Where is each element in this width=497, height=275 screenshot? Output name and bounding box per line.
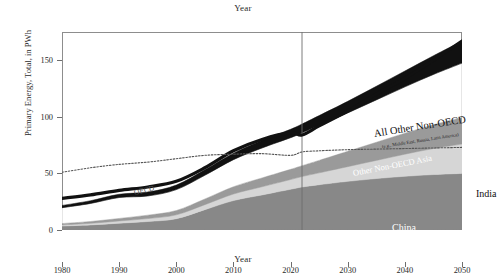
y-tick-label: 0 (25, 226, 53, 235)
annotation-india: India (476, 188, 497, 199)
plot-area: Africa All Other Non-OECD (e.g., Middle … (62, 32, 462, 230)
y-tick-mark (57, 173, 62, 174)
chart-svg (62, 32, 462, 230)
y-tick-label: 100 (25, 112, 53, 121)
x-tick-label: 1980 (40, 266, 84, 275)
y-tick-mark (57, 60, 62, 61)
y-tick-label: 150 (25, 56, 53, 65)
x-tick-label: 2040 (383, 266, 427, 275)
x-tick-label: 1990 (97, 266, 141, 275)
y-tick-label: 50 (25, 169, 53, 178)
x-tick-label: 2020 (269, 266, 313, 275)
y-tick-mark (57, 230, 62, 231)
x-tick-label: 2030 (326, 266, 370, 275)
x-tick-label: 2000 (154, 266, 198, 275)
chart-top-title: Year (0, 3, 486, 13)
x-tick-label: 2010 (211, 266, 255, 275)
x-tick-label: 2050 (440, 266, 484, 275)
y-tick-mark (57, 117, 62, 118)
y-axis-label: Primary Energy, Total, in PWh (23, 0, 33, 173)
x-axis-label: Year (0, 254, 486, 264)
